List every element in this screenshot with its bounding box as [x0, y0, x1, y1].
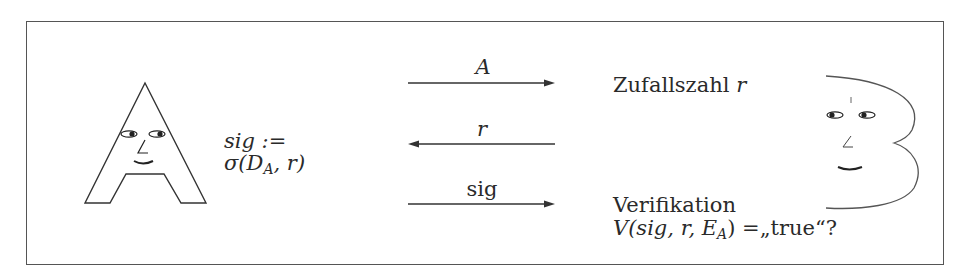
verify-subscript: A	[717, 226, 727, 242]
party-b-verification-title: Verifikation	[613, 193, 736, 217]
message-label-sig: sig	[452, 177, 512, 201]
verify-prefix: V(sig, r, E	[613, 216, 717, 240]
party-a-computation-line2: σ(DA, r)	[224, 151, 305, 181]
verify-suffix: ) =„true“?	[727, 216, 837, 240]
party-b-mouth-icon	[838, 167, 862, 170]
message-arrow-r	[408, 141, 555, 148]
random-number-label: Zufallszahl	[613, 73, 736, 97]
party-b-verification-formula: V(sig, r, EA) =„true“?	[613, 216, 837, 246]
sig-assign-text: sig :=	[224, 129, 286, 153]
party-a-computation-line1: sig :=	[224, 129, 286, 153]
party-a-figure	[85, 83, 206, 203]
party-b-figure	[826, 76, 918, 208]
message-label-r: r	[462, 117, 502, 141]
random-number-var: r	[736, 73, 746, 97]
party-b-step-random: Zufallszahl r	[613, 73, 746, 97]
sigma-subscript: A	[263, 161, 273, 177]
party-b-nose-icon	[843, 136, 853, 147]
message-label-a: A	[463, 55, 503, 79]
sigma-suffix: , r)	[274, 151, 306, 175]
sigma-prefix: σ(D	[224, 151, 263, 175]
party-b-eyes-icon	[827, 112, 875, 118]
message-arrow-a	[408, 80, 555, 87]
message-arrow-sig	[408, 201, 555, 208]
